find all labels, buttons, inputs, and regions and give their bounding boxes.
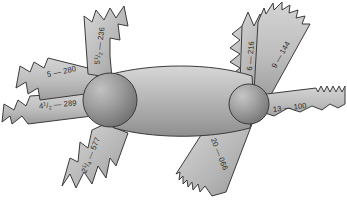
right-hub-sphere [229,84,269,124]
code-value: 100 [293,101,307,112]
left-hub-sphere [83,73,137,127]
right-hub [229,84,269,124]
saw-blade-illustration: 21/4 — 577 41/2 — 289 5 — 280 51/2 — 236 [0,0,347,202]
code-value: 289 [63,98,77,108]
left-hub [83,73,137,127]
code-value: 236 [96,26,107,40]
code-value: 216 [246,41,256,55]
saw-blade-figure: 21/4 — 577 41/2 — 289 5 — 280 51/2 — 236 [0,0,347,202]
